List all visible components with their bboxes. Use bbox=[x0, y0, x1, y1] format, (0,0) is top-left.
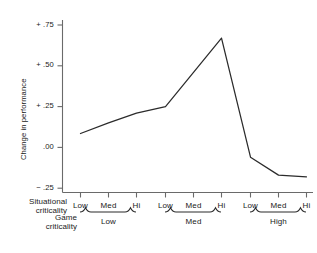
y-tick-label-000: .00 bbox=[14, 143, 54, 151]
x-tick-label-5: Hi bbox=[208, 202, 236, 211]
x-tick-label-3: Low bbox=[152, 202, 180, 211]
data-series-line bbox=[81, 38, 307, 177]
game-group-label-med: Med bbox=[172, 218, 216, 227]
y-tick-label-neg025: − .25 bbox=[14, 184, 54, 192]
y-tick-label-075: + .75 bbox=[14, 21, 54, 29]
x-tick-label-1: Med bbox=[95, 202, 123, 211]
chart-figure: Change in performance + .75 + .50 + .25 … bbox=[0, 0, 316, 253]
x-tick-label-8: Hi bbox=[293, 202, 317, 211]
x-tick-marks bbox=[81, 193, 307, 198]
game-group-label-low: Low bbox=[87, 218, 131, 227]
y-tick-marks bbox=[58, 25, 63, 188]
x-tick-label-6: Low bbox=[237, 202, 265, 211]
y-tick-label-050: + .50 bbox=[14, 61, 54, 69]
game-group-label-high: High bbox=[257, 218, 301, 227]
y-tick-label-025: + .25 bbox=[14, 102, 54, 110]
game-criticality-title-line2: criticality bbox=[11, 223, 77, 232]
x-tick-label-7: Med bbox=[265, 202, 293, 211]
x-tick-label-0: Low bbox=[67, 202, 95, 211]
x-tick-label-2: Hi bbox=[123, 202, 151, 211]
x-tick-label-4: Med bbox=[180, 202, 208, 211]
